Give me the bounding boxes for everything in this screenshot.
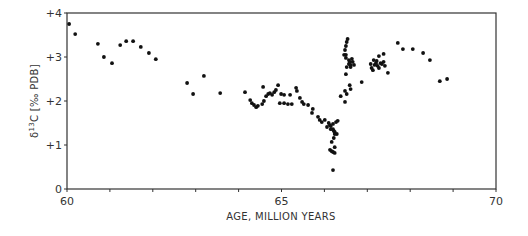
y-tick-label: +1 — [46, 139, 62, 152]
data-point — [288, 93, 292, 97]
plot-border — [67, 13, 496, 189]
data-point — [306, 103, 310, 107]
plot-frame — [67, 13, 496, 189]
x-axis-title: AGE, MILLION YEARS — [226, 211, 335, 222]
data-point — [218, 91, 222, 95]
data-point — [343, 89, 347, 93]
data-point — [298, 96, 302, 100]
x-tick-label: 70 — [489, 195, 503, 208]
data-point — [383, 64, 387, 68]
data-point — [428, 58, 432, 62]
y-tick-label: +4 — [46, 7, 62, 20]
data-point — [349, 87, 353, 91]
y-tick-label: +3 — [46, 51, 62, 64]
data-point — [154, 57, 158, 61]
data-point — [96, 42, 100, 46]
data-point — [438, 79, 442, 83]
data-point — [276, 83, 280, 87]
data-point — [261, 85, 265, 89]
data-point — [369, 62, 373, 66]
data-point — [333, 151, 337, 155]
data-point — [344, 72, 348, 76]
data-point — [360, 80, 364, 84]
data-point — [139, 45, 143, 49]
data-point — [331, 168, 335, 172]
data-point — [131, 39, 135, 43]
x-tick-label: 65 — [275, 195, 289, 208]
data-point — [202, 74, 206, 78]
data-point — [411, 47, 415, 51]
data-point — [445, 77, 449, 81]
data-point — [185, 81, 189, 85]
data-point — [343, 48, 347, 52]
data-point — [382, 60, 386, 64]
data-point — [352, 63, 356, 67]
y-axis-title: δ13C [‰ PDB] — [28, 64, 40, 138]
data-point — [421, 51, 425, 55]
data-point — [282, 93, 286, 97]
data-point — [343, 100, 347, 104]
data-point — [375, 59, 379, 63]
data-point — [286, 102, 290, 106]
data-point — [329, 124, 333, 128]
data-point — [243, 90, 247, 94]
data-point — [349, 65, 353, 69]
data-point — [401, 47, 405, 51]
data-point — [335, 132, 339, 136]
data-point — [339, 94, 343, 98]
data-point — [342, 53, 346, 57]
data-point — [67, 22, 71, 26]
x-tick-label: 60 — [60, 195, 74, 208]
data-point — [377, 54, 381, 58]
data-point — [330, 140, 334, 144]
data-point — [124, 39, 128, 43]
data-point — [282, 101, 286, 105]
data-point — [311, 107, 315, 111]
data-point — [73, 32, 77, 36]
scatter-chart: 606570 0+1+2+3+4 AGE, MILLION YEARS δ13C… — [0, 0, 528, 236]
data-point — [102, 55, 106, 59]
data-point — [290, 102, 294, 106]
data-point — [278, 101, 282, 105]
data-point — [147, 51, 151, 55]
data-point — [346, 37, 350, 41]
data-point — [274, 88, 278, 92]
data-point — [262, 99, 266, 103]
data-point — [256, 104, 260, 108]
data-point — [396, 41, 400, 45]
data-point — [345, 65, 349, 69]
data-point — [325, 125, 329, 129]
data-point — [350, 57, 354, 61]
data-point — [302, 102, 306, 106]
data-point — [344, 44, 348, 48]
data-points — [67, 22, 449, 172]
y-axis-ticks: 0+1+2+3+4 — [46, 7, 67, 196]
data-point — [191, 92, 195, 96]
data-point — [332, 136, 336, 140]
data-point — [348, 83, 352, 87]
data-point — [110, 61, 114, 65]
y-tick-label: 0 — [55, 183, 62, 196]
data-point — [333, 145, 337, 149]
data-point — [118, 43, 122, 47]
data-point — [310, 111, 314, 115]
data-point — [382, 52, 386, 56]
data-point — [336, 119, 340, 123]
data-point — [323, 118, 327, 122]
x-axis-ticks: 606570 — [60, 189, 503, 208]
data-point — [327, 121, 331, 125]
data-point — [386, 71, 390, 75]
y-tick-label: +2 — [46, 95, 62, 108]
data-point — [377, 66, 381, 70]
data-point — [295, 89, 299, 93]
data-point — [371, 68, 375, 72]
